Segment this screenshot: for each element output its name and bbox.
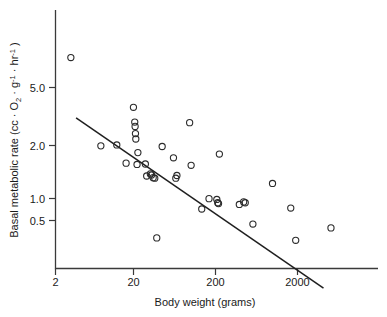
data-point — [130, 104, 136, 110]
x-tick-label-2000: 2000 — [285, 276, 309, 288]
y-axis-title: Basal metabolic rate (cc · O2 · g-1 · hr… — [8, 42, 23, 237]
y-axis-title-sup-hr: -1 — [8, 49, 17, 56]
data-point — [199, 206, 205, 212]
x-tick-label-20: 20 — [127, 276, 139, 288]
data-point — [170, 155, 176, 161]
y-tick-label-2: 2.0 — [30, 140, 45, 152]
y-tick-label-1: 1.0 — [30, 193, 45, 205]
y-tickmarks — [49, 88, 56, 221]
data-point — [135, 150, 141, 156]
y-axis-title-mid2: · hr — [8, 55, 20, 75]
data-point — [132, 123, 138, 129]
data-point — [288, 205, 294, 211]
data-point — [188, 162, 194, 168]
x-tick-label-2: 2 — [52, 276, 58, 288]
data-point — [250, 221, 256, 227]
data-point — [123, 160, 129, 166]
data-point — [328, 225, 334, 231]
data-point — [134, 161, 140, 167]
y-axis-title-lead: Basal metabolic rate (cc · O — [8, 102, 20, 238]
x-tick-label-200: 200 — [206, 276, 224, 288]
data-point — [68, 54, 74, 60]
data-point — [293, 237, 299, 243]
y-axis-title-sup-g: -1 — [8, 75, 17, 82]
data-point — [154, 235, 160, 241]
data-point — [206, 196, 212, 202]
chart-figure: 5.0 2.0 1.0 0.5 2 20 200 2000 Body weigh… — [0, 0, 387, 317]
data-point — [269, 180, 275, 186]
y-tick-label-5: 5.0 — [30, 82, 45, 94]
scatter-plot: 5.0 2.0 1.0 0.5 2 20 200 2000 Body weigh… — [0, 0, 387, 317]
x-tickmarks — [56, 269, 298, 276]
data-point — [98, 143, 104, 149]
regression-line — [76, 118, 323, 288]
x-axis-title: Body weight (grams) — [155, 296, 256, 308]
y-axis-title-mid: · g — [8, 82, 20, 98]
y-tick-label-05: 0.5 — [30, 215, 45, 227]
data-point — [187, 120, 193, 126]
data-point — [216, 151, 222, 157]
data-point — [159, 143, 165, 149]
y-axis-title-tail: ) — [8, 42, 20, 49]
axis-spines — [56, 10, 379, 269]
scatter-markers — [68, 54, 334, 243]
